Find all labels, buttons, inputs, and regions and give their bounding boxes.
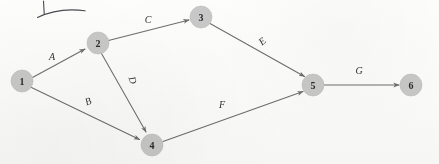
handwritten-annotation-layer xyxy=(38,1,86,18)
node-3: 3 xyxy=(190,6,212,28)
node-1-label: 1 xyxy=(20,76,25,87)
edge-label-B: B xyxy=(83,95,93,107)
node-4-label: 4 xyxy=(150,140,155,151)
edge-label-C: C xyxy=(145,14,152,25)
node-5-label: 5 xyxy=(311,80,316,91)
edge-D-line xyxy=(102,54,147,133)
edge-label-G: G xyxy=(355,65,362,76)
directed-graph-figure: A B C D E F xyxy=(0,0,439,164)
edge-E: E xyxy=(210,24,305,77)
edge-F: F xyxy=(163,92,303,142)
edge-E-line xyxy=(210,24,305,77)
edge-F-line xyxy=(163,92,303,142)
edge-B: B xyxy=(32,88,140,140)
edge-label-A: A xyxy=(48,51,56,62)
handwritten-vertical-stroke-icon xyxy=(44,1,45,14)
node-6: 6 xyxy=(400,74,422,96)
nodes-layer: 1 2 3 4 5 6 xyxy=(11,6,422,156)
node-3-label: 3 xyxy=(199,12,204,23)
edge-C: C xyxy=(109,14,190,41)
node-2: 2 xyxy=(87,32,109,54)
edge-A: A xyxy=(33,49,86,78)
edge-G: G xyxy=(324,65,399,86)
edge-label-E: E xyxy=(255,35,268,48)
edge-D: D xyxy=(102,54,147,133)
node-1: 1 xyxy=(11,70,33,92)
edges-layer: A B C D E F xyxy=(32,14,400,142)
node-6-label: 6 xyxy=(409,80,414,91)
node-2-label: 2 xyxy=(96,38,101,49)
edge-label-F: F xyxy=(218,99,226,110)
node-5: 5 xyxy=(302,74,324,96)
edge-label-D: D xyxy=(126,74,139,86)
node-4: 4 xyxy=(141,134,163,156)
figure-canvas: A B C D E F xyxy=(0,0,439,164)
edge-A-line xyxy=(33,49,86,78)
